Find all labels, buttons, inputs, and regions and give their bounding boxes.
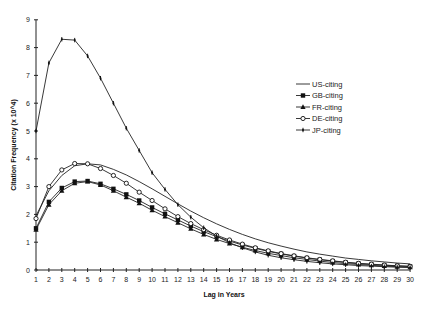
x-tick-label: 9 bbox=[137, 276, 141, 283]
y-tick-label: 7 bbox=[26, 72, 30, 79]
x-tick-label: 16 bbox=[226, 276, 234, 283]
x-tick-label: 11 bbox=[161, 276, 168, 283]
x-tick-label: 21 bbox=[290, 276, 298, 283]
legend-item-fr-citing: FR-citing bbox=[296, 103, 342, 112]
series-us-citing bbox=[36, 164, 410, 264]
y-tick-label: 8 bbox=[26, 44, 30, 51]
x-tick-label: 23 bbox=[316, 276, 324, 283]
x-tick-label: 17 bbox=[239, 276, 247, 283]
x-tick-label: 25 bbox=[342, 276, 350, 283]
x-tick-label: 19 bbox=[264, 276, 272, 283]
series-de-citing bbox=[34, 161, 412, 268]
x-tick-label: 4 bbox=[73, 276, 77, 283]
axes: 0123456789123456789101112131415161718192… bbox=[26, 16, 414, 283]
x-axis-label: Lag in Years bbox=[203, 291, 244, 299]
x-tick-label: 5 bbox=[86, 276, 90, 283]
x-tick-label: 6 bbox=[99, 276, 103, 283]
x-tick-label: 15 bbox=[213, 276, 221, 283]
line-chart: 0123456789123456789101112131415161718192… bbox=[0, 0, 433, 314]
legend-item-de-citing: DE-citing bbox=[296, 114, 342, 123]
x-tick-label: 2 bbox=[47, 276, 51, 283]
series-jp-citing bbox=[35, 37, 411, 270]
y-tick-label: 1 bbox=[26, 239, 30, 246]
x-tick-label: 8 bbox=[124, 276, 128, 283]
legend-item-jp-citing: JP-citing bbox=[296, 126, 341, 135]
svg-text:FR-citing: FR-citing bbox=[312, 103, 342, 112]
series-group bbox=[33, 37, 412, 270]
x-tick-label: 12 bbox=[174, 276, 182, 283]
x-tick-label: 27 bbox=[368, 276, 376, 283]
y-tick-label: 3 bbox=[26, 183, 30, 190]
x-tick-label: 18 bbox=[251, 276, 259, 283]
x-tick-label: 24 bbox=[329, 276, 337, 283]
x-tick-label: 1 bbox=[34, 276, 38, 283]
legend-item-us-citing: US-citing bbox=[296, 80, 342, 89]
y-tick-label: 2 bbox=[26, 211, 30, 218]
y-tick-label: 5 bbox=[26, 128, 30, 135]
x-tick-label: 28 bbox=[380, 276, 388, 283]
x-tick-label: 10 bbox=[148, 276, 156, 283]
y-tick-label: 4 bbox=[26, 155, 30, 162]
x-tick-label: 29 bbox=[393, 276, 401, 283]
svg-text:JP-citing: JP-citing bbox=[312, 126, 341, 135]
series-fr-citing bbox=[33, 179, 412, 269]
x-tick-label: 22 bbox=[303, 276, 311, 283]
x-tick-label: 13 bbox=[187, 276, 195, 283]
y-tick-label: 9 bbox=[26, 16, 30, 23]
svg-text:DE-citing: DE-citing bbox=[312, 114, 342, 123]
series-gb-citing bbox=[34, 179, 413, 269]
x-tick-label: 3 bbox=[60, 276, 64, 283]
x-tick-label: 14 bbox=[200, 276, 208, 283]
x-tick-label: 26 bbox=[355, 276, 363, 283]
y-axis-label: Citation Frequency (x 10^4) bbox=[10, 99, 18, 191]
legend: US-citingGB-citingFR-citingDE-citingJP-c… bbox=[296, 80, 343, 135]
svg-text:GB-citing: GB-citing bbox=[312, 91, 343, 100]
x-tick-label: 7 bbox=[111, 276, 115, 283]
legend-item-gb-citing: GB-citing bbox=[296, 91, 343, 100]
svg-text:US-citing: US-citing bbox=[312, 80, 342, 89]
x-tick-label: 20 bbox=[277, 276, 285, 283]
y-tick-label: 6 bbox=[26, 100, 30, 107]
x-tick-label: 30 bbox=[406, 276, 414, 283]
y-tick-label: 0 bbox=[26, 267, 30, 274]
